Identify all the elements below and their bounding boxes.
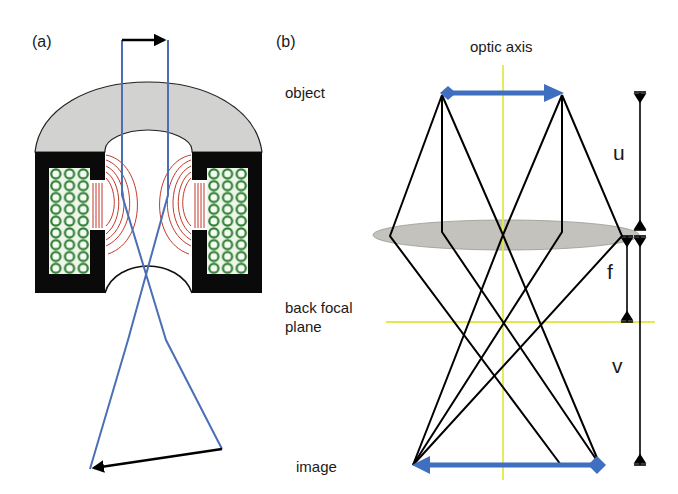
optical-rays bbox=[390, 95, 622, 465]
image-label: image bbox=[296, 458, 337, 475]
v-dimension-label: v bbox=[612, 357, 623, 374]
dimension-f bbox=[621, 236, 633, 322]
f-dimension-label: f bbox=[607, 263, 613, 280]
magnetic-field-lines bbox=[93, 155, 204, 254]
left-coil bbox=[49, 168, 90, 274]
panel-a-label: (a) bbox=[32, 33, 52, 50]
back-focal-plane-label-line1: back focal bbox=[285, 299, 353, 316]
right-coil bbox=[207, 168, 248, 274]
panel-b-label: (b) bbox=[276, 33, 296, 50]
image-arrow bbox=[94, 449, 222, 468]
object-arrow-b bbox=[440, 84, 564, 102]
panel-a-magnetic-lens bbox=[35, 40, 262, 469]
figure-canvas bbox=[0, 0, 678, 494]
optic-axis-label: optic axis bbox=[470, 38, 533, 55]
dimension-u bbox=[634, 92, 646, 230]
yoke-dome bbox=[35, 82, 262, 152]
dimension-v bbox=[634, 236, 646, 465]
lens bbox=[373, 220, 639, 250]
image-arrow-b bbox=[412, 456, 606, 474]
object-label: object bbox=[285, 84, 325, 101]
back-focal-plane-label-line2: plane bbox=[285, 318, 322, 335]
u-dimension-label: u bbox=[613, 144, 625, 161]
